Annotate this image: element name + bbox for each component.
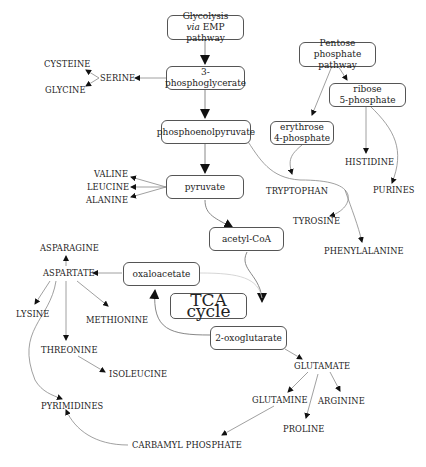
2-oxoglutarate-label: 2-oxoglutarate xyxy=(215,333,282,344)
glutamate-label: GLUTAMATE xyxy=(294,361,350,371)
asparagine-label: ASPARAGINE xyxy=(40,243,99,253)
pentose-line1: Pentose phosphate xyxy=(300,38,375,60)
tyrosine-label: TYROSINE xyxy=(293,216,340,226)
pyruvate-label: pyruvate xyxy=(185,182,225,193)
serine-label: SERINE xyxy=(100,73,135,83)
3-phosphoglycerate-box: 3-phosphoglycerate xyxy=(166,66,245,90)
ribose-5-phosphate-box: ribose 5-phosphate xyxy=(329,83,406,107)
2-oxoglutarate-box: 2-oxoglutarate xyxy=(210,326,287,350)
tryptophan-label: TRYPTOPHAN xyxy=(266,186,328,196)
glutamine-label: GLUTAMINE xyxy=(252,395,308,405)
pentose-line2: pathway xyxy=(318,60,357,71)
threonine-label: THREONINE xyxy=(41,345,98,355)
phenylalanine-label: PHENYLALANINE xyxy=(324,246,404,256)
glycolysis-line2: via EMP pathway xyxy=(168,22,243,44)
glycine-label: GLYCINE xyxy=(45,85,86,95)
phosphoenolpyruvate-label: phosphoenolpyruvate xyxy=(157,127,255,138)
erythrose-line1: erythrose xyxy=(280,122,324,133)
acetyl-coa-box: acetyl-CoA xyxy=(209,227,284,251)
glycolysis-box: Glycolysis via EMP pathway xyxy=(167,15,244,40)
purines-label: PURINES xyxy=(373,185,415,195)
alanine-label: ALANINE xyxy=(86,195,128,205)
arginine-label: ARGININE xyxy=(318,396,365,406)
3-phosphoglycerate-label: 3-phosphoglycerate xyxy=(165,67,246,89)
ribose-line2: 5-phosphate xyxy=(339,95,395,106)
isoleucine-label: ISOLEUCINE xyxy=(109,369,167,379)
erythrose-4-phosphate-box: erythrose 4-phosphate xyxy=(270,121,334,145)
carbamyl-phosphate-label: CARBAMYL PHOSPHATE xyxy=(132,440,242,450)
tca-cycle-label: TCA cycle xyxy=(171,295,246,317)
leucine-label: LEUCINE xyxy=(87,182,129,192)
pentose-phosphate-box: Pentose phosphate pathway xyxy=(299,42,376,67)
oxaloacetate-label: oxaloacetate xyxy=(133,269,191,280)
aspartate-label: ASPARTATE xyxy=(43,268,95,278)
phosphoenolpyruvate-box: phosphoenolpyruvate xyxy=(161,120,251,144)
pyruvate-box: pyruvate xyxy=(166,175,244,199)
proline-label: PROLINE xyxy=(283,424,324,434)
lysine-label: LYSINE xyxy=(16,309,49,319)
valine-label: VALINE xyxy=(94,169,128,179)
erythrose-line2: 4-phosphate xyxy=(274,133,330,144)
oxaloacetate-box: oxaloacetate xyxy=(123,262,200,286)
cysteine-label: CYSTEINE xyxy=(44,59,91,69)
ribose-line1: ribose xyxy=(353,84,381,95)
pyrimidines-label: PYRIMIDINES xyxy=(41,401,103,411)
methionine-label: METHIONINE xyxy=(86,315,148,325)
glycolysis-line1: Glycolysis xyxy=(183,11,229,22)
tca-cycle-box: TCA cycle xyxy=(170,293,247,319)
histidine-label: HISTIDINE xyxy=(345,157,394,167)
acetyl-coa-label: acetyl-CoA xyxy=(222,234,271,245)
